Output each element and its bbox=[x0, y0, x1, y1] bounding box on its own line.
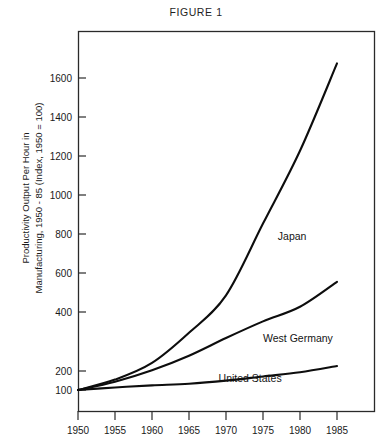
y-tick-label: 1600 bbox=[50, 73, 73, 84]
y-tick-label: 600 bbox=[55, 268, 72, 279]
x-tick-label: 1955 bbox=[104, 425, 127, 436]
y-tick-label: 1000 bbox=[50, 190, 73, 201]
y-axis-tick-labels: 1600 1400 1200 1000 800 600 400 200 100 bbox=[50, 73, 73, 396]
y-tick-label: 1400 bbox=[50, 112, 73, 123]
x-tick-label: 1985 bbox=[326, 425, 349, 436]
y-tick-label: 800 bbox=[55, 229, 72, 240]
x-tick-label: 1950 bbox=[67, 425, 90, 436]
series-label-japan: Japan bbox=[278, 230, 307, 242]
figure-container: FIGURE 1 Productivity Output Per Hour in… bbox=[0, 0, 392, 445]
x-tick-label: 1965 bbox=[178, 425, 201, 436]
x-axis-ticks bbox=[78, 411, 337, 420]
x-axis-tick-labels: 1950 1955 1960 1965 1970 1975 1980 1985 bbox=[67, 425, 349, 436]
x-tick-label: 1975 bbox=[252, 425, 275, 436]
series-label-west-germany: West Germany bbox=[263, 332, 334, 344]
y-tick-label: 1200 bbox=[50, 151, 73, 162]
x-tick-label: 1980 bbox=[289, 425, 312, 436]
series-label-united-states: United States bbox=[219, 372, 282, 384]
y-axis-ticks bbox=[78, 78, 86, 390]
y-tick-label: 400 bbox=[55, 307, 72, 318]
plot-frame bbox=[79, 32, 375, 412]
x-tick-label: 1970 bbox=[215, 425, 238, 436]
y-tick-label: 200 bbox=[55, 366, 72, 377]
y-tick-label: 100 bbox=[55, 385, 72, 396]
line-chart-plot: 1600 1400 1200 1000 800 600 400 200 100 … bbox=[0, 0, 392, 445]
x-tick-label: 1960 bbox=[141, 425, 164, 436]
